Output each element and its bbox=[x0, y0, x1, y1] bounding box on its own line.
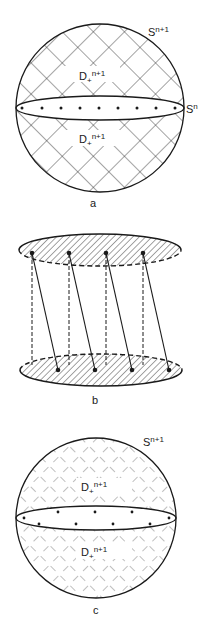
figure-b-caption: b bbox=[92, 394, 98, 406]
top-disk bbox=[19, 234, 181, 266]
equator-label: Sn bbox=[186, 102, 198, 115]
figure-a-caption: a bbox=[90, 197, 97, 209]
figure-a: Sn+1 Sn D+n+1 D+n+1 a bbox=[0, 0, 204, 210]
sphere-dashed-crosshatch bbox=[0, 430, 204, 610]
figure-c: Sn+1 D+n+1 D+n+1 c bbox=[0, 430, 204, 616]
diagram-canvas: Sn+1 Sn D+n+1 D+n+1 a bbox=[0, 0, 204, 629]
twisted-solid-lines bbox=[32, 253, 169, 370]
figure-c-caption: c bbox=[93, 604, 99, 616]
bottom-disk bbox=[20, 354, 182, 386]
vertical-dashed-lines bbox=[32, 254, 143, 365]
sphere-crosshatch bbox=[0, 0, 204, 210]
sphere-label: Sn+1 bbox=[148, 25, 169, 38]
sphere-label: Sn+1 bbox=[143, 435, 164, 448]
figure-b: b bbox=[19, 234, 182, 406]
